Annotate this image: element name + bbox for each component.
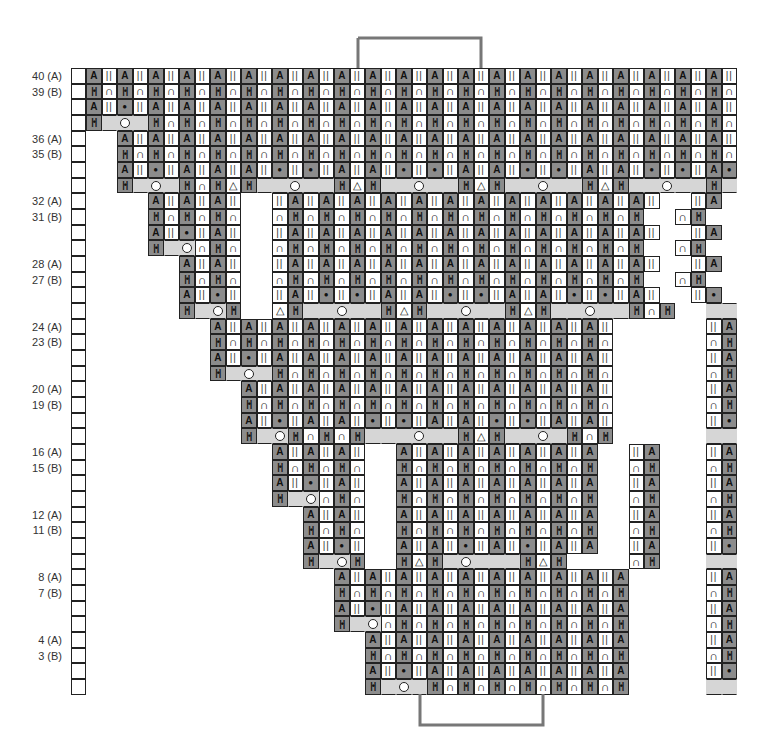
- stitch-cell: ||: [582, 193, 598, 209]
- arch-icon: ∩: [415, 462, 424, 474]
- a-icon: A: [555, 416, 562, 426]
- arch-icon: ∩: [353, 117, 362, 129]
- stitch-cell: ||: [319, 413, 335, 429]
- double-bar-icon: ||: [416, 384, 423, 394]
- double-bar-icon: ||: [385, 165, 392, 175]
- h-icon: |•|: [587, 369, 592, 378]
- h-icon: |•|: [463, 400, 468, 409]
- a-icon: A: [726, 478, 733, 488]
- stitch-cell: ∩: [536, 146, 552, 162]
- circle-icon: [213, 306, 223, 316]
- stitch-cell: ●: [179, 225, 195, 241]
- double-bar-icon: ||: [602, 102, 609, 112]
- row-label: 39 (B): [0, 85, 62, 100]
- h-icon: |•|: [184, 118, 189, 127]
- stitch-cell: ∩: [520, 240, 536, 256]
- arch-icon: ∩: [461, 242, 470, 254]
- stitch-cell: A: [520, 475, 536, 491]
- stitch-cell: A: [613, 99, 629, 115]
- arch-icon: ∩: [322, 462, 331, 474]
- stitch-cell: |•|: [396, 146, 412, 162]
- h-icon: |•|: [215, 150, 220, 159]
- stitch-cell: ||: [427, 193, 443, 209]
- stitch-cell: ||: [474, 507, 490, 523]
- h-icon: |•|: [401, 400, 406, 409]
- a-icon: A: [555, 384, 562, 394]
- stitch-cell: |•|: [396, 366, 412, 382]
- arch-icon: ∩: [709, 587, 718, 599]
- h-icon: |•|: [618, 682, 623, 691]
- a-icon: A: [307, 541, 314, 551]
- stitch-cell: A: [536, 193, 552, 209]
- stitch-cell: [536, 178, 552, 194]
- stitch-cell: ||: [443, 413, 459, 429]
- a-icon: A: [369, 322, 376, 332]
- a-icon: A: [555, 102, 562, 112]
- a-icon: A: [338, 478, 345, 488]
- stitch-cell: A: [722, 569, 738, 585]
- double-bar-icon: ||: [385, 604, 392, 614]
- stitch-cell: ||: [195, 68, 211, 84]
- stitch-cell: A: [303, 350, 319, 366]
- arch-icon: ∩: [632, 524, 641, 536]
- stitch-cell: ||: [505, 569, 521, 585]
- stitch-cell: A: [365, 381, 381, 397]
- arch-icon: ∩: [430, 274, 439, 286]
- h-icon: |•|: [401, 463, 406, 472]
- a-icon: A: [338, 71, 345, 81]
- double-bar-icon: ||: [230, 353, 237, 363]
- arch-icon: ∩: [353, 524, 362, 536]
- h-icon: |•|: [339, 338, 344, 347]
- stitch-cell: ||: [691, 68, 707, 84]
- stitch-cell: ∩: [334, 272, 350, 288]
- stitch-cell: A: [148, 193, 164, 209]
- stitch-cell: |•|: [505, 209, 521, 225]
- stitch-cell: ●: [722, 663, 738, 679]
- stitch-cell: |•|: [241, 115, 257, 131]
- stitch-cell: ∩: [164, 84, 180, 100]
- a-icon: A: [431, 541, 438, 551]
- arch-icon: ∩: [678, 274, 687, 286]
- double-bar-icon: ||: [416, 71, 423, 81]
- stitch-cell: ||: [567, 131, 583, 147]
- stitch-cell: ||: [226, 256, 242, 272]
- stitch-cell: A: [489, 319, 505, 335]
- a-icon: A: [586, 604, 593, 614]
- double-bar-icon: ||: [462, 228, 469, 238]
- stitch-cell: △: [474, 178, 490, 194]
- h-icon: |•|: [649, 526, 654, 535]
- stitch-cell: A: [272, 68, 288, 84]
- stitch-cell: A: [629, 287, 645, 303]
- stitch-cell: ||: [474, 381, 490, 397]
- stitch-cell: A: [582, 569, 598, 585]
- h-icon: |•|: [463, 369, 468, 378]
- stitch-cell: ||: [288, 350, 304, 366]
- stitch-cell: A: [598, 256, 614, 272]
- stitch-cell: ||: [551, 256, 567, 272]
- a-icon: A: [462, 478, 469, 488]
- a-icon: A: [571, 196, 578, 206]
- h-icon: |•|: [386, 306, 391, 315]
- stitch-cell: ∩: [505, 366, 521, 382]
- double-bar-icon: ||: [664, 102, 671, 112]
- a-icon: A: [524, 102, 531, 112]
- stitch-cell: |•|: [551, 679, 567, 695]
- stitch-cell: ∩: [505, 84, 521, 100]
- stitch-cell: A: [288, 256, 304, 272]
- stitch-cell: A: [722, 507, 738, 523]
- double-bar-icon: ||: [369, 290, 376, 300]
- stitch-cell: A: [427, 99, 443, 115]
- h-icon: |•|: [277, 400, 282, 409]
- stitch-cell: |•|: [722, 585, 738, 601]
- arch-icon: ∩: [539, 681, 548, 693]
- double-bar-icon: ||: [261, 416, 268, 426]
- stitch-cell: A: [210, 193, 226, 209]
- stitch-cell: ||: [567, 444, 583, 460]
- a-icon: A: [710, 134, 717, 144]
- h-icon: |•|: [541, 306, 546, 315]
- stitch-cell: ∩: [660, 146, 676, 162]
- stitch-cell: ∩: [691, 146, 707, 162]
- double-bar-icon: ||: [633, 541, 640, 551]
- stitch-cell: A: [520, 663, 536, 679]
- stitch-cell: ∩: [412, 460, 428, 476]
